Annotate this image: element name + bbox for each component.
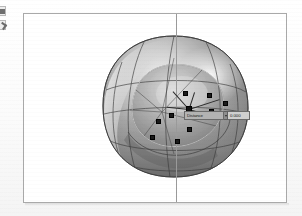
control-point[interactable] [156,119,161,124]
control-point[interactable] [223,101,228,106]
viewport-drop-shadow [25,203,289,206]
chevron-down-icon[interactable] [224,111,228,120]
perspective-viewport[interactable]: Distance 0.000 [23,13,287,203]
control-point[interactable] [169,113,174,118]
model-render [24,14,287,203]
control-point[interactable] [150,135,155,140]
application-root: Distance 0.000 [0,0,302,216]
control-point[interactable] [187,127,192,132]
control-point[interactable] [175,139,180,144]
move-tool-button[interactable] [0,20,6,30]
select-tool-button[interactable] [0,6,6,16]
control-point[interactable] [207,93,212,98]
control-point[interactable] [183,91,188,96]
square-select-icon [0,9,5,14]
left-toolbar [0,6,9,36]
numeric-edit-tooltip[interactable]: Distance 0.000 [184,111,250,120]
pod-chair-surface[interactable] [24,14,287,203]
tooltip-label: Distance [184,111,224,120]
tooltip-value-field[interactable]: 0.000 [228,111,250,120]
arrow-cursor-icon [0,22,7,30]
